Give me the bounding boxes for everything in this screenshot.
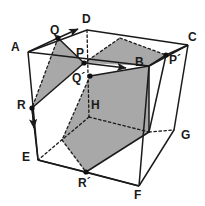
label-R-prime: R´ bbox=[78, 177, 91, 189]
label-B: B bbox=[135, 56, 144, 68]
edge-Pp-K bbox=[149, 55, 166, 132]
point-dot-R bbox=[29, 105, 34, 110]
figure-canvas bbox=[0, 0, 205, 206]
edge-F-G bbox=[139, 130, 174, 186]
label-R: R bbox=[17, 99, 26, 111]
label-G: G bbox=[181, 129, 190, 141]
edge-Rp-F bbox=[86, 172, 139, 186]
shaded-upper-right-band bbox=[84, 38, 166, 66]
label-Q-prime: Q´ bbox=[72, 72, 85, 84]
label-P-prime: P´ bbox=[169, 54, 181, 66]
point-dot-Pp bbox=[163, 52, 168, 57]
point-dot-Qp bbox=[87, 73, 92, 78]
edge-D-C bbox=[87, 30, 188, 45]
label-E: E bbox=[22, 151, 30, 163]
label-H: H bbox=[91, 99, 100, 111]
label-C: C bbox=[188, 31, 197, 43]
label-D: D bbox=[82, 13, 91, 25]
label-F: F bbox=[134, 189, 141, 201]
label-P: P bbox=[76, 47, 84, 59]
label-Q: Q bbox=[50, 24, 59, 36]
point-dot-P bbox=[81, 60, 86, 65]
cube-cross-section-figure: A Q D C P B P´ Q´ R H G E R´ F bbox=[0, 0, 205, 206]
edge-K-G bbox=[149, 130, 174, 132]
point-dot-Rp bbox=[83, 169, 88, 174]
label-A: A bbox=[11, 41, 20, 53]
